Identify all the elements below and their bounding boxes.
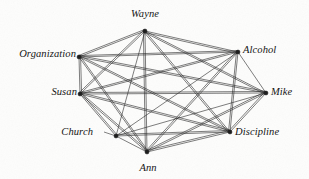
network-graph [0, 0, 309, 179]
graph-node-susan[interactable] [78, 92, 82, 96]
graph-node-organization[interactable] [77, 55, 81, 59]
node-label-alcohol: Alcohol [243, 45, 276, 56]
graph-node-discipline[interactable] [228, 130, 232, 134]
graph-edge [79, 52, 238, 57]
graph-edge [147, 93, 266, 152]
graph-edge-parallel [79, 56, 266, 92]
node-label-ann: Ann [139, 163, 156, 174]
graph-edge [80, 93, 266, 94]
graph-edge [145, 31, 266, 93]
graph-edge-parallel [144, 32, 265, 94]
node-label-susan: Susan [51, 87, 77, 98]
graph-node-alcohol[interactable] [236, 50, 240, 54]
graph-edge [145, 31, 238, 52]
node-label-discipline: Discipline [235, 127, 279, 138]
graph-edge-parallel [78, 30, 144, 56]
graph-edge [147, 132, 230, 152]
graph-edge-parallel [81, 93, 148, 151]
graph-edge-parallel [81, 57, 82, 94]
node-label-organization: Organization [19, 49, 76, 60]
diagram-canvas: WayneAlcoholMikeDisciplineAnnChurchSusan… [0, 0, 309, 179]
node-label-wayne: Wayne [131, 9, 159, 20]
graph-edge [230, 52, 238, 132]
graph-node-ann[interactable] [145, 150, 149, 154]
graph-node-church[interactable] [114, 134, 118, 138]
graph-edge [79, 57, 266, 93]
graph-edge-parallel [145, 32, 238, 53]
graph-edge [80, 94, 230, 132]
graph-edge-parallel [79, 51, 238, 56]
graph-edge-parallel [146, 51, 237, 151]
graph-edge [79, 31, 145, 57]
graph-edge-parallel [80, 92, 266, 93]
node-label-mike: Mike [271, 87, 292, 98]
graph-edge [147, 52, 238, 152]
graph-node-mike[interactable] [264, 91, 268, 95]
graph-node-wayne[interactable] [143, 29, 147, 33]
node-label-church: Church [61, 127, 93, 138]
graph-edge [80, 52, 238, 94]
graph-edge-parallel [146, 92, 265, 151]
graph-edge [79, 57, 80, 94]
